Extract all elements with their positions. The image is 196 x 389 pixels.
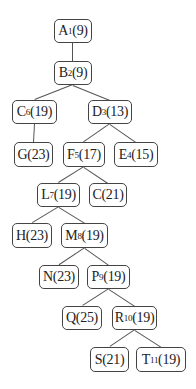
node-label: T (142, 352, 150, 368)
node-label: P (92, 269, 100, 285)
node-label: F (67, 147, 75, 163)
node-label: L (41, 187, 49, 203)
node-value: (9) (72, 65, 87, 81)
edge-d-e (109, 124, 136, 143)
node-label: R (115, 310, 124, 326)
node-value: (13) (106, 104, 128, 120)
tree-diagram: A1(9)B2(9)C6(19)D3(13)G(23)F5(17)E4(15)L… (0, 0, 196, 389)
node-label: D (92, 104, 102, 120)
node-value: (17) (79, 147, 101, 163)
edge-f-c21 (83, 167, 108, 184)
edge-d-f (83, 123, 110, 142)
edge-b-c6 (34, 84, 73, 100)
node-label: G (18, 147, 28, 163)
node-s: S(21) (90, 347, 129, 372)
node-c21: C(21) (89, 183, 127, 207)
node-label: H (16, 228, 26, 244)
node-label: C (92, 187, 101, 203)
node-a: A1(9) (54, 19, 92, 43)
edge-l-h (31, 206, 58, 223)
edge-a-b (72, 43, 73, 61)
node-l: L7(19) (37, 183, 80, 207)
node-label: A (58, 23, 68, 39)
node-label: M (65, 228, 77, 244)
node-value: (9) (72, 23, 87, 39)
node-label: Q (66, 310, 76, 326)
node-p: P9(19) (87, 265, 130, 289)
node-f: F5(17) (63, 142, 105, 167)
node-n: N(23) (39, 265, 79, 289)
node-value: (21) (101, 187, 123, 203)
node-value: (19) (54, 187, 76, 203)
node-value: (21) (102, 352, 124, 368)
edge-r-t (134, 330, 161, 348)
edge-l-m (58, 207, 85, 224)
edge-p-q (81, 288, 108, 306)
edge-p-r (108, 289, 135, 307)
node-label: N (43, 269, 53, 285)
edge-r-s (109, 329, 135, 347)
node-label: E (119, 147, 127, 163)
node-value: (25) (76, 310, 98, 326)
node-q: Q(25) (62, 306, 102, 330)
node-value: (23) (26, 228, 48, 244)
node-r: R10(19) (112, 306, 157, 330)
node-b: B2(9) (54, 61, 92, 85)
node-value: (23) (27, 147, 49, 163)
node-value: (19) (103, 269, 125, 285)
node-value: (19) (82, 228, 104, 244)
edge-f-l (58, 166, 84, 183)
node-h: H(23) (12, 223, 52, 248)
node-c6: C6(19) (12, 100, 57, 124)
node-label: B (59, 65, 68, 81)
node-value: (23) (53, 269, 75, 285)
node-label: C (17, 104, 26, 120)
node-e: E4(15) (114, 142, 158, 167)
node-t: T11(19) (136, 347, 186, 372)
node-value: (19) (30, 104, 52, 120)
node-d: D3(13) (88, 100, 132, 124)
edge-m-p (84, 248, 109, 266)
node-g: G(23) (14, 142, 53, 167)
edge-b-d (73, 85, 110, 101)
node-value: (19) (132, 310, 154, 326)
node-value: (19) (158, 352, 180, 368)
edge-m-n (58, 247, 84, 265)
node-label: S (95, 352, 103, 368)
node-m: M8(19) (61, 223, 108, 248)
edge-c6-g (33, 124, 35, 142)
node-value: (15) (131, 147, 153, 163)
